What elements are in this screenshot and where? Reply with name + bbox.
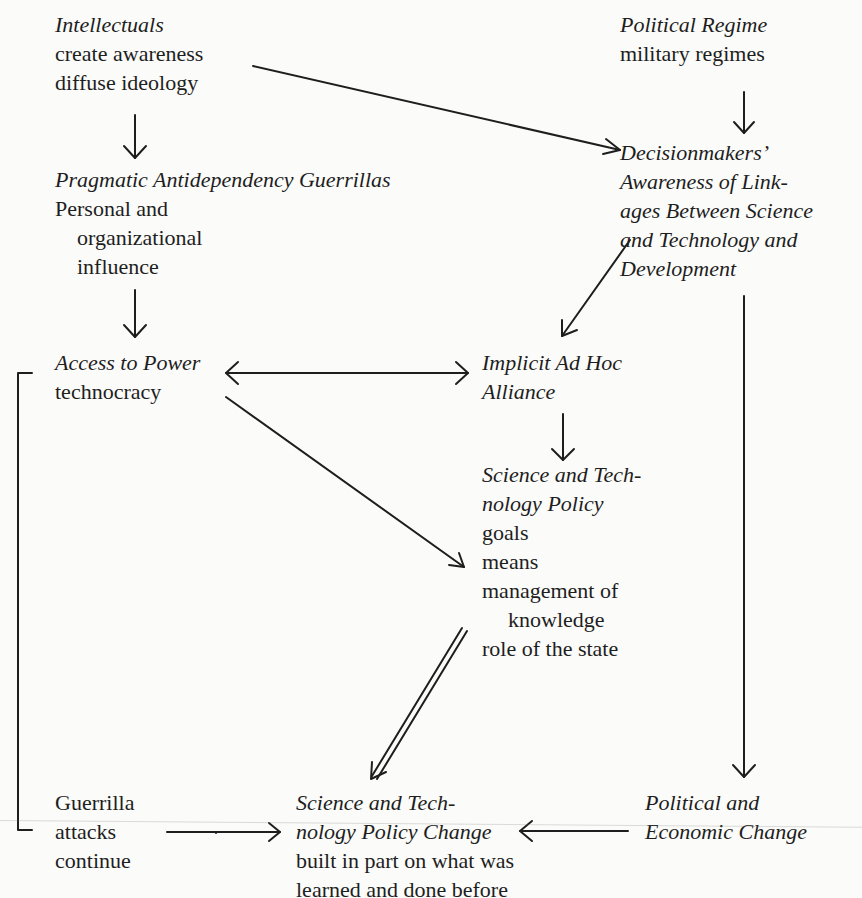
node-line: diffuse ideology bbox=[55, 68, 203, 97]
node-title-line: Alliance bbox=[482, 377, 622, 406]
node-line: learned and done before bbox=[296, 875, 514, 898]
node-title-line: ages Between Science bbox=[620, 196, 813, 225]
arrow-decisionmakers-to-econ-change bbox=[733, 296, 755, 777]
node-line: goals bbox=[482, 518, 641, 547]
node-political-economic-change: Political and Economic Change bbox=[645, 788, 807, 846]
node-title-line: Science and Tech- bbox=[296, 788, 514, 817]
node-line: built in part on what was bbox=[296, 846, 514, 875]
node-line: organizational bbox=[55, 223, 391, 252]
arrow-guerrillas-to-access bbox=[124, 290, 146, 337]
node-line: Guerrilla bbox=[55, 788, 134, 817]
node-line: means bbox=[482, 547, 641, 576]
node-intellectuals: Intellectuals create awareness diffuse i… bbox=[55, 10, 203, 97]
node-title-line: Development bbox=[620, 254, 813, 283]
node-title-line: Science and Tech- bbox=[482, 460, 641, 489]
diagram-connectors bbox=[0, 0, 862, 898]
node-line: technocracy bbox=[55, 377, 200, 406]
node-line: knowledge bbox=[482, 605, 641, 634]
node-implicit-alliance: Implicit Ad Hoc Alliance bbox=[482, 348, 622, 406]
arrow-access-to-st-policy bbox=[226, 397, 464, 567]
arrow-intellectuals-to-guerrillas bbox=[124, 115, 146, 158]
node-decisionmakers: Decisionmakers’ Awareness of Link- ages … bbox=[620, 138, 813, 283]
node-title-line: nology Policy Change bbox=[296, 817, 514, 846]
node-title-line: nology Policy bbox=[482, 489, 641, 518]
node-line: create awareness bbox=[55, 39, 203, 68]
arrow-regime-to-decisionmakers bbox=[734, 92, 754, 133]
node-st-policy: Science and Tech- nology Policy goals me… bbox=[482, 460, 641, 663]
node-title: Intellectuals bbox=[55, 10, 203, 39]
node-guerrillas: Pragmatic Antidependency Guerrillas Pers… bbox=[55, 165, 391, 281]
node-title: Political Regime bbox=[620, 10, 767, 39]
arrow-st-policy-to-change-double bbox=[371, 628, 467, 779]
arrow-attacks-to-change bbox=[167, 823, 280, 841]
node-title-line: Awareness of Link- bbox=[620, 167, 813, 196]
bracket-feedback-loop bbox=[18, 373, 32, 830]
node-political-regime: Political Regime military regimes bbox=[620, 10, 767, 68]
node-line: military regimes bbox=[620, 39, 767, 68]
node-line: continue bbox=[55, 846, 134, 875]
node-line: influence bbox=[55, 252, 391, 281]
arrow-alliance-to-st-policy bbox=[552, 414, 574, 460]
node-title: Pragmatic Antidependency Guerrillas bbox=[55, 165, 391, 194]
node-title: Access to Power bbox=[55, 348, 200, 377]
arrow-intellectuals-to-decisionmakers bbox=[253, 66, 620, 154]
node-title-line: Implicit Ad Hoc bbox=[482, 348, 622, 377]
node-title-line: and Technology and bbox=[620, 225, 813, 254]
node-title-line: Decisionmakers’ bbox=[620, 138, 813, 167]
arrow-access-alliance-bidirectional bbox=[226, 362, 468, 384]
node-line: role of the state bbox=[482, 634, 641, 663]
node-access-to-power: Access to Power technocracy bbox=[55, 348, 200, 406]
node-guerrilla-attacks: Guerrilla attacks continue bbox=[55, 788, 134, 875]
node-title-line: Political and bbox=[645, 788, 807, 817]
node-line: Personal and bbox=[55, 194, 391, 223]
node-line: management of bbox=[482, 576, 641, 605]
node-st-policy-change: Science and Tech- nology Policy Change b… bbox=[296, 788, 514, 898]
node-title-line: Economic Change bbox=[645, 817, 807, 846]
